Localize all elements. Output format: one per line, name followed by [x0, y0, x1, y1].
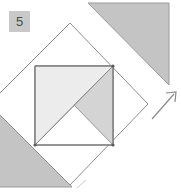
- origami-step-diagram: 5: [0, 0, 181, 193]
- arrow-shaft: [152, 94, 174, 119]
- vertex-dot-top-right: [111, 64, 114, 67]
- tick-mark-bottom: [77, 180, 86, 188]
- step-number-label: 5: [16, 15, 23, 28]
- vertex-dot-bottom-left: [33, 143, 36, 146]
- step-number-badge: 5: [9, 11, 30, 32]
- vertex-dot-bottom-right: [111, 143, 114, 146]
- fold-direction-arrow: [152, 92, 176, 119]
